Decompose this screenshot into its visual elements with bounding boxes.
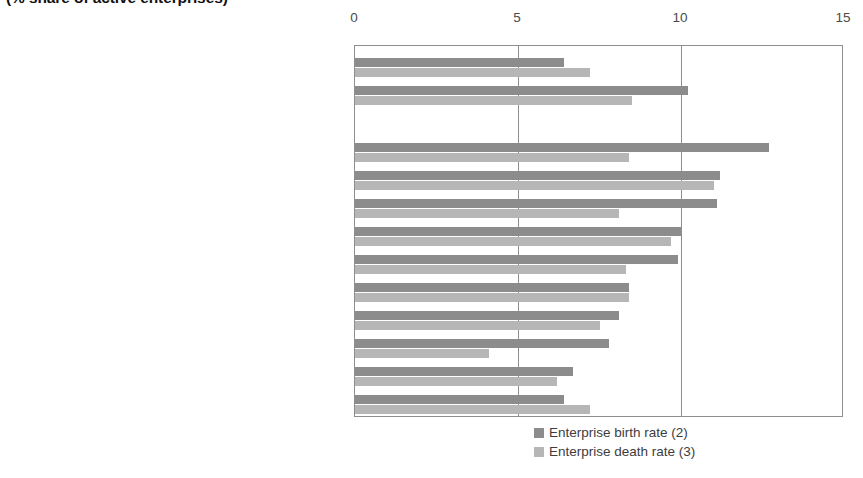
legend-item[interactable]: Enterprise death rate (3) [534,442,695,461]
bar-birth-rate [355,283,629,292]
bar-death-rate [355,181,714,190]
bar-death-rate [355,96,632,105]
bar-birth-rate [355,199,717,208]
bar-death-rate [355,377,557,386]
bar-death-rate [355,405,590,414]
bar-death-rate [355,68,590,77]
bar-group [355,171,842,190]
bar-birth-rate [355,227,681,236]
legend-swatch-icon [534,447,544,457]
bar-group [355,58,842,77]
bar-group [355,143,842,162]
legend: Enterprise birth rate (2)Enterprise deat… [534,423,695,461]
bar-birth-rate [355,58,564,67]
bar-birth-rate [355,339,609,348]
bar-birth-rate [355,255,678,264]
legend-swatch-icon [534,428,544,438]
plot-area [354,45,843,417]
legend-label: Enterprise birth rate (2) [549,425,688,440]
bar-birth-rate [355,171,720,180]
bar-birth-rate [355,86,688,95]
bar-group [355,86,842,105]
bar-birth-rate [355,367,573,376]
bar-death-rate [355,209,619,218]
bar-group [355,311,842,330]
bar-death-rate [355,265,626,274]
chart-container: (% share of active enterprises) 051015 I… [0,0,863,478]
bar-group [355,395,842,414]
bar-birth-rate [355,311,619,320]
bar-birth-rate [355,143,769,152]
x-tick-5: 5 [513,10,521,25]
bar-group [355,283,842,302]
legend-item[interactable]: Enterprise birth rate (2) [534,423,695,442]
bar-death-rate [355,349,489,358]
x-tick-15: 15 [835,10,850,25]
bar-death-rate [355,153,629,162]
bar-group [355,367,842,386]
bar-death-rate [355,321,600,330]
bar-birth-rate [355,395,564,404]
bar-death-rate [355,293,629,302]
x-tick-0: 0 [350,10,358,25]
bar-group [355,199,842,218]
bar-group [355,255,842,274]
chart-title: (% share of active enterprises) [6,0,228,7]
x-tick-10: 10 [672,10,687,25]
bar-death-rate [355,237,671,246]
legend-label: Enterprise death rate (3) [549,444,695,459]
bar-group [355,339,842,358]
bar-group [355,227,842,246]
